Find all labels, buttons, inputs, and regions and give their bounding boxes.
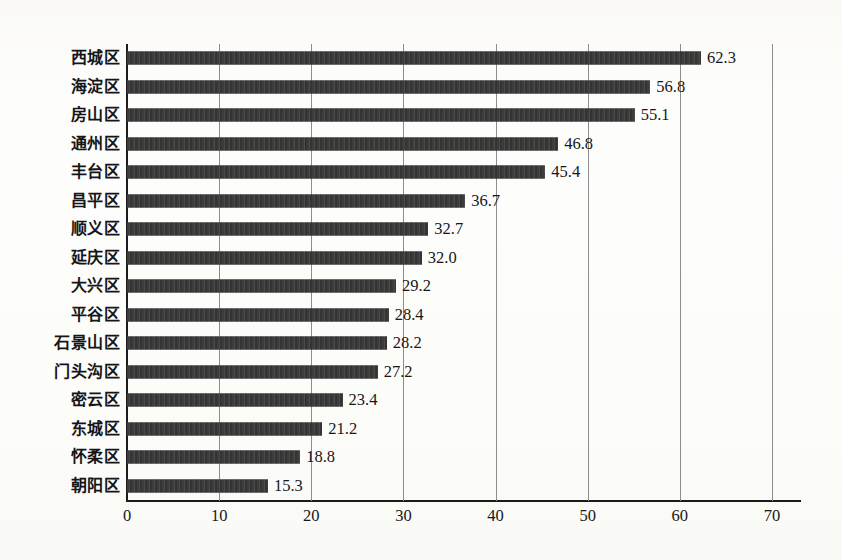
value-label: 36.7 bbox=[471, 193, 500, 210]
x-tick-label: 0 bbox=[97, 508, 157, 525]
category-label: 海淀区 bbox=[0, 79, 120, 95]
category-label: 房山区 bbox=[0, 107, 120, 123]
x-tick-label: 40 bbox=[466, 508, 526, 525]
category-label: 顺义区 bbox=[0, 221, 120, 237]
category-label: 门头沟区 bbox=[0, 364, 120, 380]
category-label: 大兴区 bbox=[0, 278, 120, 294]
x-tick-label: 70 bbox=[742, 508, 802, 525]
bar bbox=[127, 451, 300, 464]
category-label: 通州区 bbox=[0, 136, 120, 152]
bar bbox=[127, 365, 378, 378]
value-label: 28.4 bbox=[395, 307, 424, 324]
bar bbox=[127, 137, 558, 150]
bar bbox=[127, 109, 635, 122]
bar bbox=[127, 479, 268, 492]
value-label: 46.8 bbox=[564, 136, 593, 153]
gridline-70 bbox=[772, 44, 773, 501]
value-label: 62.3 bbox=[707, 50, 736, 67]
value-label: 27.2 bbox=[384, 364, 413, 381]
bar bbox=[127, 394, 343, 407]
category-label: 丰台区 bbox=[0, 164, 120, 180]
x-tick-label: 60 bbox=[650, 508, 710, 525]
category-label: 平谷区 bbox=[0, 307, 120, 323]
value-label: 21.2 bbox=[328, 421, 357, 438]
bar bbox=[127, 166, 545, 179]
category-label: 密云区 bbox=[0, 392, 120, 408]
value-label: 23.4 bbox=[349, 392, 378, 409]
category-label: 东城区 bbox=[0, 421, 120, 437]
bar bbox=[127, 223, 428, 236]
value-label: 32.7 bbox=[434, 221, 463, 238]
horizontal-bar-chart: 西城区海淀区房山区通州区丰台区昌平区顺义区延庆区大兴区平谷区石景山区门头沟区密云… bbox=[0, 0, 842, 560]
value-label: 45.4 bbox=[551, 164, 580, 181]
bar bbox=[127, 194, 465, 207]
x-tick-label: 10 bbox=[189, 508, 249, 525]
bar bbox=[127, 337, 387, 350]
category-label: 西城区 bbox=[0, 50, 120, 66]
bar bbox=[127, 52, 701, 65]
value-label: 28.2 bbox=[393, 335, 422, 352]
value-label: 15.3 bbox=[274, 478, 303, 495]
value-label: 55.1 bbox=[641, 107, 670, 124]
bar bbox=[127, 308, 389, 321]
x-tick-label: 20 bbox=[281, 508, 341, 525]
bar bbox=[127, 422, 322, 435]
category-label: 怀柔区 bbox=[0, 449, 120, 465]
category-label: 石景山区 bbox=[0, 335, 120, 351]
bar bbox=[127, 251, 422, 264]
gridline-60 bbox=[680, 44, 681, 501]
x-axis-line bbox=[126, 500, 801, 502]
value-label: 56.8 bbox=[656, 79, 685, 96]
category-label: 朝阳区 bbox=[0, 478, 120, 494]
category-label: 昌平区 bbox=[0, 193, 120, 209]
value-label: 18.8 bbox=[306, 449, 335, 466]
category-label: 延庆区 bbox=[0, 250, 120, 266]
value-label: 32.0 bbox=[428, 250, 457, 267]
bar bbox=[127, 80, 650, 93]
x-tick-label: 30 bbox=[373, 508, 433, 525]
bar bbox=[127, 280, 396, 293]
x-tick-label: 50 bbox=[558, 508, 618, 525]
value-label: 29.2 bbox=[402, 278, 431, 295]
